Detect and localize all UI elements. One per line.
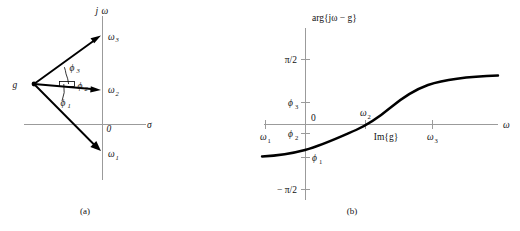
svg-text:ω: ω [260, 132, 267, 142]
svg-text:arg{jω − g}: arg{jω − g} [312, 13, 357, 23]
svg-text:2: 2 [368, 113, 371, 120]
label-sigma-axis: σ [147, 120, 152, 130]
figure-container: g 0 σ j ω ω 3 ω 2 ω 1 ϕ 3 [0, 0, 520, 231]
svg-text:2: 2 [116, 90, 120, 97]
ylabel-phi3: ϕ 3 [288, 98, 299, 110]
label-phi3: ϕ 3 [70, 63, 81, 75]
svg-text:ϕ: ϕ [61, 98, 66, 108]
svg-text:1: 1 [116, 154, 119, 161]
svg-text:1: 1 [319, 158, 322, 165]
svg-text:ϕ: ϕ [78, 81, 83, 91]
svg-text:ϕ: ϕ [312, 153, 317, 163]
svg-text:j: j [94, 6, 99, 16]
label-jomega-axis: j ω [94, 6, 109, 16]
label-omega1: ω 1 [108, 149, 119, 161]
xlabel-omega1: ω 1 [260, 132, 271, 144]
angle-arc-phi3-outer [64, 67, 66, 74]
label-omega2: ω 2 [108, 85, 120, 97]
ylabel-phi2: ϕ 2 [288, 129, 298, 141]
arrowhead-omega2 [90, 86, 101, 92]
label-phi1: ϕ 1 [61, 98, 71, 110]
panel-b-title: arg{jω − g} [312, 13, 357, 23]
svg-text:3: 3 [295, 103, 299, 110]
svg-text:ϕ: ϕ [288, 98, 293, 108]
figure-svg: g 0 σ j ω ω 3 ω 2 ω 1 ϕ 3 [0, 0, 520, 231]
ylabel-zero: 0 [311, 113, 316, 123]
svg-text:3: 3 [76, 67, 81, 74]
pole-point-g [32, 82, 37, 87]
label-omega3: ω 3 [108, 32, 120, 44]
xlabel-omega-axis: ω [503, 120, 510, 130]
svg-text:1: 1 [268, 137, 271, 144]
vector-omega2 [34, 84, 101, 93]
panel-b-group: arg{jω − g} π/2 ϕ 3 0 ϕ 2 ϕ 1 − π/2 ω 1 [260, 13, 510, 216]
caption-a: (a) [80, 206, 90, 216]
svg-text:1: 1 [68, 102, 71, 109]
vector-omega1 [34, 84, 101, 151]
xlabel-omega3: ω 3 [427, 132, 439, 144]
ylabel-pi-over-2: π/2 [285, 55, 297, 65]
xlabel-omega2: ω 2 [360, 108, 371, 120]
label-phi2: ϕ 2 [78, 81, 89, 93]
caption-b: (b) [347, 206, 358, 216]
svg-text:ω: ω [427, 132, 434, 142]
svg-text:3: 3 [115, 36, 120, 43]
svg-text:ϕ: ϕ [288, 129, 293, 139]
label-pole-g: g [13, 80, 18, 90]
ylabel-neg-pi-over-2: − π/2 [277, 185, 297, 195]
svg-text:ω: ω [102, 6, 109, 16]
label-origin: 0 [107, 124, 112, 134]
svg-text:ω: ω [108, 85, 115, 95]
svg-text:ω: ω [360, 108, 367, 118]
svg-text:ϕ: ϕ [70, 63, 75, 73]
angle-arc-phi3 [66, 74, 69, 84]
svg-text:3: 3 [435, 137, 439, 144]
svg-text:2: 2 [295, 134, 298, 141]
panel-a-group: g 0 σ j ω ω 3 ω 2 ω 1 ϕ 3 [13, 6, 153, 216]
svg-text:ω: ω [108, 32, 115, 42]
phase-response-curve [262, 76, 498, 157]
xlabel-img-annotation: Im{g} [374, 132, 398, 142]
ylabel-phi1: ϕ 1 [312, 153, 322, 165]
svg-text:ω: ω [108, 149, 115, 159]
